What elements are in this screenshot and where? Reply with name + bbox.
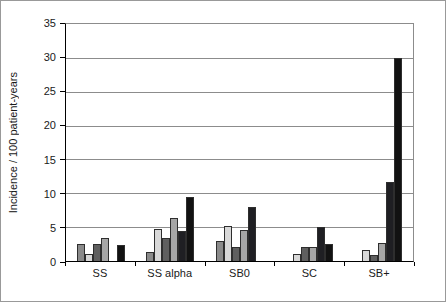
bar-SB+-series-3-dark-gray	[370, 255, 378, 261]
y-tick-5	[60, 227, 65, 228]
bar-slot	[154, 24, 162, 261]
bar-SS alpha-series-5-near-black	[178, 231, 186, 261]
plot-area	[65, 23, 414, 262]
x-tick-1	[135, 262, 136, 266]
bar-SB0-series-5-near-black	[248, 207, 256, 261]
bar-slot	[394, 24, 402, 261]
category-group-SS alpha	[135, 24, 204, 261]
y-tick-35	[60, 23, 65, 24]
y-tick-label-30: 30	[32, 51, 56, 63]
y-tick-25	[60, 91, 65, 92]
bar-slot	[362, 24, 370, 261]
bar-SB0-series-1-medium-gray	[216, 241, 224, 261]
y-tick-20	[60, 125, 65, 126]
bar-SS-series-6-black	[117, 245, 125, 261]
category-label-SC: SC	[274, 267, 344, 279]
bar-SB0-series-2-light-gray	[224, 226, 232, 261]
bar-slot	[240, 24, 248, 261]
bar-slot	[386, 24, 394, 261]
bar-SB+-series-4-gray	[378, 243, 386, 261]
bar-slot	[317, 24, 325, 261]
bar-slot	[186, 24, 194, 261]
y-tick-15	[60, 159, 65, 160]
category-group-SC	[274, 24, 343, 261]
y-tick-label-0: 0	[32, 256, 56, 268]
bar-slot	[101, 24, 109, 261]
bar-SS-series-4-gray	[101, 238, 109, 261]
y-tick-30	[60, 57, 65, 58]
bar-SB+-series-2-light-gray	[362, 250, 370, 262]
y-tick-label-25: 25	[32, 85, 56, 97]
bar-slot	[370, 24, 378, 261]
bar-SS-series-3-dark-gray	[93, 244, 101, 261]
bar-slot	[85, 24, 93, 261]
y-tick-10	[60, 193, 65, 194]
bar-slot	[162, 24, 170, 261]
bar-SS alpha-series-1-medium-gray	[146, 252, 154, 261]
bar-SB+-series-6-black	[394, 58, 402, 261]
bar-SC-series-2-light-gray	[293, 254, 301, 261]
category-label-SB0: SB0	[205, 267, 275, 279]
bar-slot	[93, 24, 101, 261]
bar-slot	[224, 24, 232, 261]
x-tick-3	[274, 262, 275, 266]
bar-SS alpha-series-4-gray	[170, 218, 178, 261]
bar-slot	[325, 24, 333, 261]
y-axis-title: Incidence / 100 patient-years	[7, 72, 19, 213]
bar-slot	[170, 24, 178, 261]
category-label-SS: SS	[65, 267, 135, 279]
chart-figure: Incidence / 100 patient-years SSSS alpha…	[0, 0, 446, 302]
bar-slot	[378, 24, 386, 261]
bar-SC-series-4-gray	[309, 247, 317, 261]
bar-slot	[285, 24, 293, 261]
bar-SC-series-6-black	[325, 244, 333, 261]
category-group-SB+	[344, 24, 413, 261]
bar-slot	[146, 24, 154, 261]
bar-SS alpha-series-6-black	[186, 197, 194, 261]
bar-slot	[216, 24, 224, 261]
bar-SC-series-3-dark-gray	[301, 247, 309, 261]
bar-SB0-series-3-dark-gray	[232, 247, 240, 261]
bar-slot	[77, 24, 85, 261]
bar-SS-series-2-light-gray	[85, 254, 93, 261]
bar-SB+-series-5-near-black	[386, 182, 394, 261]
y-tick-label-15: 15	[32, 154, 56, 166]
y-tick-label-10: 10	[32, 188, 56, 200]
bar-SB0-series-4-gray	[240, 230, 248, 261]
bar-slot	[354, 24, 362, 261]
bar-SC-series-5-near-black	[317, 227, 325, 261]
category-label-SS alpha: SS alpha	[135, 267, 205, 279]
y-tick-label-35: 35	[32, 17, 56, 29]
x-tick-2	[205, 262, 206, 266]
category-group-SS	[66, 24, 135, 261]
bar-slot	[232, 24, 240, 261]
bars-layer	[66, 24, 413, 261]
x-axis-category-labels: SSSS alphaSB0SCSB+	[65, 267, 414, 279]
y-tick-label-5: 5	[32, 222, 56, 234]
bar-slot	[117, 24, 125, 261]
bar-slot	[293, 24, 301, 261]
y-axis-title-wrap: Incidence / 100 patient-years	[4, 23, 21, 262]
bar-slot	[309, 24, 317, 261]
x-tick-0	[65, 262, 66, 266]
bar-SS alpha-series-3-dark-gray	[162, 238, 170, 261]
x-tick-4	[344, 262, 345, 266]
bar-slot	[256, 24, 264, 261]
bar-slot	[109, 24, 117, 261]
bar-slot	[178, 24, 186, 261]
x-tick-5	[414, 262, 415, 266]
bar-slot	[301, 24, 309, 261]
category-label-SB+: SB+	[344, 267, 414, 279]
category-group-SB0	[205, 24, 274, 261]
bar-SS alpha-series-2-light-gray	[154, 229, 162, 261]
y-tick-label-20: 20	[32, 119, 56, 131]
bar-slot	[248, 24, 256, 261]
bar-SS-series-1-medium-gray	[77, 244, 85, 261]
